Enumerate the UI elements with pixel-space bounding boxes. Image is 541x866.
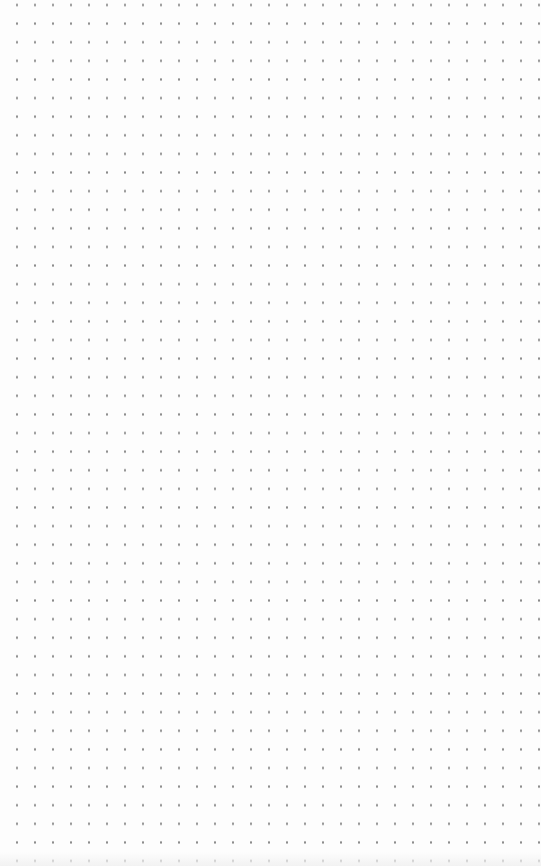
bottom-edge-shadow	[0, 852, 541, 866]
dot-grid-canvas[interactable]	[0, 0, 541, 866]
